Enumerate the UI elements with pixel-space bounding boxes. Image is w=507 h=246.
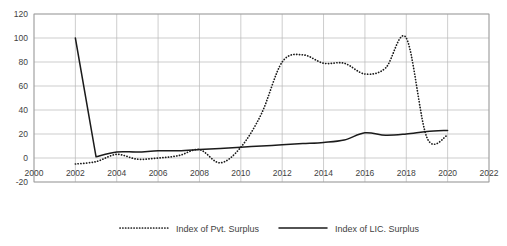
x-axis-tick-label: 2006	[149, 168, 168, 178]
y-axis-tick-label: 120	[14, 9, 28, 19]
x-axis-tick-label: 2022	[480, 168, 499, 178]
y-axis-tick-label: 0	[23, 153, 28, 163]
line-chart: 120100806040200-20 200020022004200620082…	[0, 0, 507, 246]
plot-border	[34, 14, 489, 182]
legend-label: Index of Pvt. Surplus	[176, 224, 260, 234]
x-axis-tick-label: 2010	[231, 168, 250, 178]
legend-item-index-of-pvt-surplus[interactable]: Index of Pvt. Surplus	[120, 224, 260, 234]
x-axis-tick-label: 2000	[25, 168, 44, 178]
y-axis-tick-label: 20	[19, 129, 29, 139]
x-axis-tick-label: 2016	[355, 168, 374, 178]
legend-label: Index of LIC. Surplus	[335, 224, 420, 234]
y-axis-tick-label: 60	[19, 81, 29, 91]
y-axis-tick-label: 40	[19, 105, 29, 115]
y-axis-tick-label: 80	[19, 57, 29, 67]
x-axis-tick-label: 2002	[66, 168, 85, 178]
horizontal-gridlines	[34, 14, 489, 182]
y-axis-tick-label: -20	[16, 177, 29, 187]
x-axis-tick-label: 2018	[397, 168, 416, 178]
x-axis-tick-label: 2012	[273, 168, 292, 178]
x-axis-tick-label: 2008	[190, 168, 209, 178]
y-axis-tick-labels: 120100806040200-20	[14, 9, 28, 187]
legend-item-index-of-lic-surplus[interactable]: Index of LIC. Surplus	[279, 224, 420, 234]
chart-plot-area: 120100806040200-20 200020022004200620082…	[0, 0, 507, 246]
vertical-gridlines	[34, 14, 489, 182]
x-axis-tick-label: 2020	[438, 168, 457, 178]
series-line-index-of-pvt-surplus	[75, 36, 447, 164]
chart-legend: Index of Pvt. SurplusIndex of LIC. Surpl…	[120, 224, 420, 234]
x-axis-tick-label: 2004	[107, 168, 126, 178]
x-axis-tick-labels: 2000200220042006200820102012201420162018…	[25, 168, 499, 178]
x-axis-tick-label: 2014	[314, 168, 333, 178]
y-axis-tick-label: 100	[14, 33, 28, 43]
